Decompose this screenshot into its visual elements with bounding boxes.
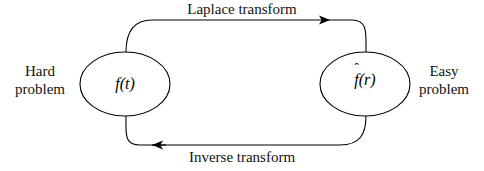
edge-label-laplace-transform-text: Laplace transform bbox=[187, 1, 297, 17]
laplace-transform-arrow-tail bbox=[330, 20, 366, 52]
hat-accent-group: ˆf bbox=[354, 72, 358, 88]
edge-label-laplace-transform: Laplace transform bbox=[150, 1, 334, 18]
inverse-transform-arrow-curve bbox=[126, 116, 152, 145]
annotation-hard-problem-line1: Hard bbox=[4, 62, 76, 80]
annotation-hard-problem-line2: problem bbox=[4, 80, 76, 98]
laplace-transform-arrow bbox=[126, 20, 330, 52]
annotation-easy-problem: Easy problem bbox=[408, 62, 480, 98]
node-label-time-domain-text: f(t) bbox=[115, 75, 135, 92]
node-label-transform-domain-args: (r) bbox=[359, 71, 376, 88]
circumflex-icon: ˆ bbox=[354, 63, 358, 73]
inverse-transform-arrow-tail bbox=[152, 116, 366, 145]
node-label-time-domain: f(t) bbox=[85, 76, 165, 92]
node-label-transform-domain: ˆf(r) bbox=[325, 72, 405, 88]
annotation-hard-problem: Hard problem bbox=[4, 62, 76, 98]
edge-label-inverse-transform: Inverse transform bbox=[150, 149, 334, 166]
annotation-easy-problem-line2: problem bbox=[408, 80, 480, 98]
edge-label-inverse-transform-text: Inverse transform bbox=[189, 149, 295, 165]
diagram-canvas: f(t) ˆf(r) Laplace transform Inverse tra… bbox=[0, 0, 484, 171]
annotation-easy-problem-line1: Easy bbox=[408, 62, 480, 80]
